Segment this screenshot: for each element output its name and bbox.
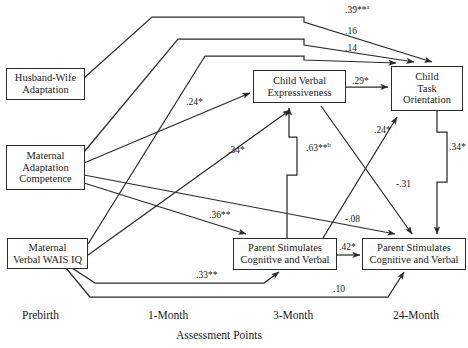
edge-madapt-to-verbal: [84, 93, 250, 163]
edge-label-pstim3-to-task: .24*: [374, 126, 391, 136]
edge-label-wais-to-verbal: .34*: [228, 146, 245, 156]
edge-label-verbal-to-task: .29*: [352, 77, 369, 87]
node-maternal-verbal-wais-iq: Maternal Verbal WAIS IQ: [7, 238, 88, 269]
node-maternal-adaptation-competence: Maternal Adaptation Competence: [6, 145, 85, 190]
node-label: Maternal Adaptation Competence: [19, 150, 71, 185]
edge-label-madapt-to-task: .16: [345, 27, 357, 37]
edge-label-wais-to-task: .14: [345, 44, 357, 54]
axis-point-1-month: 1-Month: [148, 310, 188, 322]
node-husband-wife-adaptation: Husband-Wife Adaptation: [6, 68, 85, 100]
axis-point-3-month: 3-Month: [273, 310, 313, 322]
edge-task-to-pstim24: [437, 110, 447, 234]
edge-label-pstim3-to-verbal: .63**b: [306, 142, 331, 154]
node-child-verbal-expressiveness: Child Verbal Expressiveness: [253, 70, 346, 103]
edge-hw-to-task: [84, 17, 432, 78]
edge-label-wais-to-pstim24: .10: [333, 285, 345, 295]
axis-title-assessment-points: Assessment Points: [176, 330, 262, 342]
node-parent-stimulates-3-month: Parent Stimulates Cognitive and Verbal: [233, 238, 337, 270]
node-child-task-orientation: Child Task Orientation: [391, 66, 463, 111]
axis-point-prebirth: Prebirth: [22, 310, 59, 322]
node-parent-stimulates-24-month: Parent Stimulates Cognitive and Verbal: [362, 238, 466, 270]
edge-label-madapt-to-pstim3: .36**: [209, 211, 230, 221]
node-label: Child Task Orientation: [403, 71, 451, 106]
edge-label-pstim3-to-pstim24: .42*: [339, 243, 356, 253]
axis-point-24-month: 24-Month: [393, 310, 439, 322]
edge-label-hw-to-task: .39**a: [345, 4, 369, 16]
edge-pstim3-to-verbal: [287, 108, 297, 238]
edge-label-verbal-to-pstim24: -.31: [396, 180, 411, 190]
edge-wais-to-pstim3: [72, 268, 279, 283]
edge-wais-to-verbal: [88, 110, 290, 255]
node-label: Parent Stimulates Cognitive and Verbal: [240, 242, 329, 266]
edge-label-madapt-to-verbal: .24*: [186, 98, 203, 108]
node-label: Parent Stimulates Cognitive and Verbal: [369, 242, 458, 266]
edge-label-wais-to-pstim3: .33**: [196, 271, 217, 281]
node-label: Husband-Wife Adaptation: [15, 72, 76, 96]
edge-verbal-to-pstim24: [321, 106, 412, 234]
node-label: Maternal Verbal WAIS IQ: [13, 242, 82, 266]
path-diagram: Husband-Wife Adaptation Maternal Adaptat…: [0, 0, 468, 348]
edge-label-task-to-pstim24: .34*: [449, 143, 466, 153]
node-label: Child Verbal Expressiveness: [267, 75, 331, 99]
edge-label-madapt-to-pstim24: -.08: [345, 215, 360, 225]
